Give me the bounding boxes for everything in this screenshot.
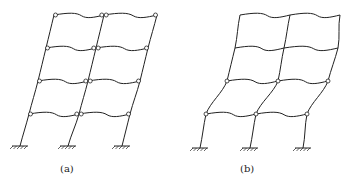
plastic-hinge-icon-a-3-1L (75, 112, 79, 116)
beam-b-1-0 (235, 46, 284, 50)
column-b-2-1 (256, 81, 278, 114)
beam-b-3-0 (206, 112, 256, 116)
fixed-support-icon-b-0-hatch (190, 148, 193, 151)
ground-column-a-1 (68, 114, 79, 146)
plastic-hinge-icon-b-3-1 (254, 112, 258, 116)
ground-column-b-0 (200, 114, 206, 148)
plastic-hinge-icon-b-3-2 (305, 112, 309, 116)
plastic-hinge-icon-a-3-2 (127, 112, 131, 116)
column-a-0-1 (96, 15, 104, 48)
beam-b-1-1 (284, 46, 338, 50)
column-b-1-0 (227, 48, 235, 81)
column-a-2-1 (79, 81, 88, 114)
frame-diagrams (0, 0, 348, 185)
column-a-0-0 (46, 15, 54, 48)
column-a-0-2 (148, 15, 157, 48)
fixed-support-icon-a-1-hatch (58, 146, 61, 149)
fixed-support-icon-b-1-hatch (240, 148, 243, 151)
plastic-hinge-icon-a-2-2 (137, 79, 141, 83)
plastic-hinge-icon-a-1-0 (46, 46, 50, 50)
plastic-hinge-icon-b-2-2 (326, 79, 330, 83)
ground-column-b-1 (250, 114, 256, 148)
ground-column-b-2 (303, 114, 307, 148)
plastic-hinge-icon-a-0-2 (154, 13, 158, 17)
column-b-1-1 (278, 48, 284, 81)
column-a-1-0 (38, 48, 46, 81)
beam-a-2-1 (88, 79, 140, 83)
column-b-1-2 (328, 48, 338, 81)
column-b-2-0 (206, 81, 227, 114)
beam-a-1-0 (46, 46, 96, 50)
beam-b-3-1 (256, 112, 307, 116)
plastic-hinge-icon-a-3-0 (29, 112, 33, 116)
beam-a-1-1 (96, 46, 148, 50)
beam-b-2-1 (278, 79, 328, 83)
column-a-1-1 (88, 48, 96, 81)
plastic-hinge-icon-a-2-0 (38, 79, 42, 83)
beam-a-2-0 (38, 79, 88, 83)
beam-a-0-1 (104, 13, 157, 17)
label-b: (b) (240, 163, 254, 174)
column-b-0-2 (338, 15, 340, 48)
column-a-2-0 (29, 81, 38, 114)
column-b-0-1 (284, 15, 290, 48)
fixed-support-icon-a-2-hatch (112, 146, 115, 149)
beam-b-0-1 (290, 13, 340, 17)
plastic-hinge-icon-a-1-1L (92, 46, 96, 50)
plastic-hinge-icon-b-2-0 (225, 79, 229, 83)
beam-a-0-0 (54, 13, 104, 17)
column-a-1-2 (140, 48, 148, 81)
fixed-support-icon-a-0-hatch (10, 146, 13, 149)
plastic-hinge-icon-a-2-1R (88, 79, 92, 83)
plastic-hinge-icon-a-0-1L (100, 13, 104, 17)
label-a: (a) (60, 163, 74, 174)
column-b-2-2 (307, 81, 328, 114)
plastic-hinge-icon-a-0-1R (104, 13, 108, 17)
beam-b-0-0 (240, 13, 290, 17)
column-b-0-0 (235, 15, 240, 48)
plastic-hinge-icon-a-3-1R (79, 112, 83, 116)
ground-column-a-0 (20, 114, 29, 146)
beam-a-3-0 (29, 112, 79, 116)
beam-b-2-0 (227, 79, 278, 83)
ground-column-a-2 (122, 114, 130, 146)
plastic-hinge-icon-a-1-1R (96, 46, 100, 50)
column-a-2-2 (130, 81, 140, 114)
plastic-hinge-icon-a-2-1L (84, 79, 88, 83)
plastic-hinge-icon-a-0-0 (54, 13, 58, 17)
beam-a-3-1 (79, 112, 130, 116)
plastic-hinge-icon-b-2-1 (276, 79, 280, 83)
plastic-hinge-icon-a-1-2 (145, 46, 149, 50)
plastic-hinge-icon-b-3-0 (204, 112, 208, 116)
fixed-support-icon-b-2-hatch (293, 148, 296, 151)
